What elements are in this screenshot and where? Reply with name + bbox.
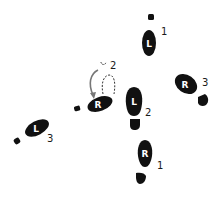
footprint-diagram: L 1 2 R L 2 R 3 L 3	[0, 0, 222, 198]
arrow-head-icon	[90, 92, 96, 99]
right-2-origin-marker: 2	[101, 60, 116, 94]
footprint-right-1: R 1	[136, 140, 163, 184]
footprint-left-2: L 2	[126, 87, 152, 130]
footprint-right-3: R 3	[171, 70, 208, 106]
rotation-arrow	[90, 70, 98, 99]
footprint-left-3: L 3	[13, 116, 53, 145]
dashed-heel-outline	[101, 62, 106, 65]
arrow-curve	[90, 70, 98, 95]
foot-letter: L	[146, 39, 152, 49]
heel-shape	[198, 94, 208, 106]
step-number: 1	[157, 160, 163, 171]
step-number: 3	[47, 133, 53, 144]
step-number: 2	[110, 60, 116, 71]
heel-shape	[13, 137, 21, 145]
heel-shape	[130, 119, 140, 130]
foot-letter: R	[142, 149, 149, 159]
step-number: 3	[202, 77, 208, 88]
heel-shape	[148, 14, 154, 20]
foot-letter: L	[33, 124, 39, 134]
dashed-sole-outline	[102, 75, 115, 94]
heel-shape	[136, 173, 146, 184]
footprint-left-1: L 1	[142, 14, 167, 56]
heel-shape	[74, 105, 81, 111]
step-number: 1	[161, 26, 167, 37]
step-number: 2	[145, 107, 151, 118]
foot-letter: L	[131, 97, 137, 107]
foot-letter: R	[182, 80, 189, 90]
foot-letter: R	[95, 100, 102, 110]
